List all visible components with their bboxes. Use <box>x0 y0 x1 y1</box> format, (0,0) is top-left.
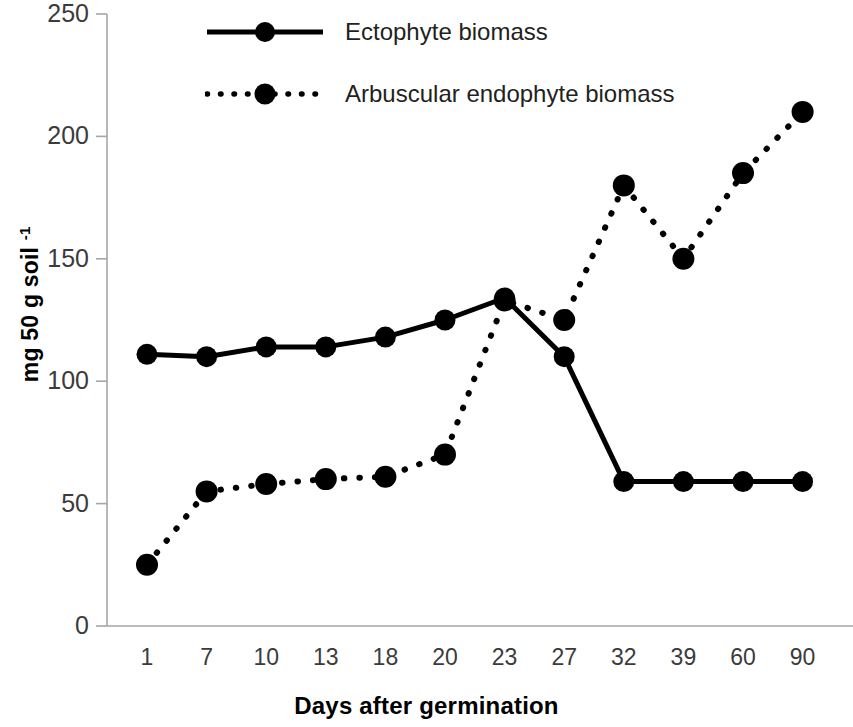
data-point-marker <box>315 336 336 357</box>
x-axis-tick-label: 27 <box>534 646 594 669</box>
data-point-marker <box>315 468 337 490</box>
y-axis-tick-label: 250 <box>19 1 89 26</box>
y-axis-tick-label: 150 <box>19 246 89 271</box>
data-point-marker <box>792 101 814 123</box>
x-axis-tick-label: 39 <box>653 646 713 669</box>
plot-area <box>0 0 853 727</box>
chart-figure: mg 50 g soil -1 Ectophyte biomass Arbusc… <box>0 0 853 727</box>
data-point-marker <box>553 309 575 331</box>
x-axis-title: Days after germination <box>0 692 853 720</box>
x-axis-tick-label: 7 <box>177 646 237 669</box>
series-line <box>147 112 803 565</box>
data-point-marker <box>733 471 754 492</box>
series-ectophyte <box>137 288 814 493</box>
data-point-marker <box>136 554 158 576</box>
data-point-marker <box>613 471 634 492</box>
data-point-marker <box>554 346 575 367</box>
series-endophyte <box>136 101 814 576</box>
data-point-marker <box>494 289 516 311</box>
data-point-marker <box>137 344 158 365</box>
data-point-marker <box>255 473 277 495</box>
y-axis-tick-label: 200 <box>19 123 89 148</box>
data-point-marker <box>434 444 456 466</box>
x-axis-tick-label: 90 <box>773 646 833 669</box>
x-axis-tick-label: 60 <box>713 646 773 669</box>
x-axis-tick-label: 18 <box>355 646 415 669</box>
y-axis-tick-label: 50 <box>19 491 89 516</box>
data-point-marker <box>196 480 218 502</box>
y-axis-tick-label: 0 <box>19 613 89 638</box>
data-point-marker <box>435 310 456 331</box>
data-point-marker <box>196 346 217 367</box>
series-line <box>147 298 803 482</box>
x-axis-tick-label: 20 <box>415 646 475 669</box>
axis-lines <box>107 14 853 626</box>
data-point-marker <box>375 327 396 348</box>
data-point-marker <box>673 471 694 492</box>
data-point-marker <box>613 174 635 196</box>
data-point-marker <box>374 466 396 488</box>
data-point-marker <box>732 162 754 184</box>
x-axis-tick-label: 32 <box>594 646 654 669</box>
x-axis-tick-label: 1 <box>117 646 177 669</box>
y-axis-ticks <box>96 14 107 626</box>
x-axis-tick-label: 13 <box>296 646 356 669</box>
x-axis-tick-label: 10 <box>236 646 296 669</box>
data-point-marker <box>256 336 277 357</box>
data-point-marker <box>672 248 694 270</box>
data-point-marker <box>792 471 813 492</box>
y-axis-tick-label: 100 <box>19 368 89 393</box>
x-axis-tick-label: 23 <box>475 646 535 669</box>
